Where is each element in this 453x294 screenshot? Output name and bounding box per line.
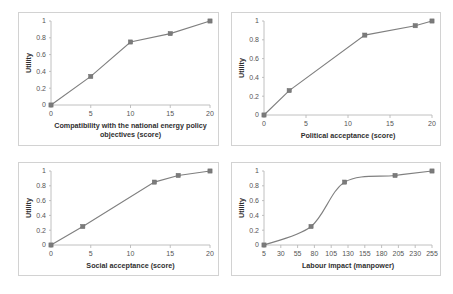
y-tick-label: 0 (255, 111, 259, 118)
data-point-marker (49, 243, 53, 247)
y-tick-label: 1 (255, 167, 259, 174)
y-tick-label: 1 (42, 17, 46, 24)
data-point-marker (363, 33, 367, 37)
panel-frame-1: 00.20.40.60.8105101520UtilityCompatibili… (18, 12, 219, 146)
chart-canvas-2: 00.20.40.60.8105101520UtilityPolitical a… (232, 13, 440, 145)
x-tick-label: 180 (376, 250, 388, 257)
data-point-marker (49, 103, 53, 107)
x-tick-label: 205 (393, 250, 405, 257)
data-point-marker (89, 74, 93, 78)
x-tick-label: 80 (311, 250, 319, 257)
chart-canvas-1: 00.20.40.60.8105101520UtilityCompatibili… (19, 13, 218, 145)
panel-frame-3: 00.20.40.60.8105101520UtilitySocial acce… (18, 162, 219, 276)
y-tick-label: 0.2 (36, 85, 46, 92)
panel-grid: 00.20.40.60.8105101520UtilityCompatibili… (0, 0, 453, 294)
x-tick-label: 15 (386, 120, 394, 127)
chart-svg: 00.20.40.60.8153055801051301551802052302… (232, 163, 440, 275)
y-tick-label: 0.8 (249, 182, 259, 189)
data-point-marker (343, 180, 347, 184)
y-tick-label: 0 (42, 101, 46, 108)
y-tick-label: 0.2 (36, 227, 46, 234)
chart-svg: 00.20.40.60.8105101520UtilitySocial acce… (19, 163, 218, 275)
x-tick-label: 130 (342, 250, 354, 257)
data-point-marker (128, 40, 132, 44)
x-tick-label: 15 (166, 110, 174, 117)
data-point-marker (262, 113, 266, 117)
x-tick-label: 230 (409, 250, 421, 257)
y-tick-label: 0.8 (36, 182, 46, 189)
x-tick-label: 15 (166, 250, 174, 257)
x-tick-label: 5 (89, 250, 93, 257)
x-tick-label: 0 (262, 120, 266, 127)
series-line-utility (264, 171, 432, 245)
y-tick-label: 0.6 (36, 197, 46, 204)
x-tick-label: 105 (325, 250, 337, 257)
x-tick-label: 5 (304, 120, 308, 127)
y-tick-label: 0 (42, 241, 46, 248)
data-point-marker (152, 180, 156, 184)
x-tick-label: 20 (206, 110, 214, 117)
y-tick-label: 0.4 (36, 212, 46, 219)
chart-canvas-4: 00.20.40.60.8153055801051301551802052302… (232, 163, 440, 275)
y-tick-label: 0.6 (36, 51, 46, 58)
chart-svg: 00.20.40.60.8105101520UtilityPolitical a… (232, 13, 440, 145)
y-tick-label: 0 (255, 241, 259, 248)
y-tick-label: 1 (42, 167, 46, 174)
x-tick-label: 5 (89, 110, 93, 117)
y-axis-title: Utility (24, 53, 33, 73)
y-tick-label: 0.4 (249, 74, 259, 81)
y-tick-label: 0.4 (249, 212, 259, 219)
figure-root: 00.20.40.60.8105101520UtilityCompatibili… (0, 0, 453, 294)
x-tick-label: 5 (262, 250, 266, 257)
y-axis-title: Utility (237, 198, 246, 218)
data-point-marker (430, 19, 434, 23)
data-point-marker (208, 169, 212, 173)
data-point-marker (208, 19, 212, 23)
x-tick-label: 155 (359, 250, 371, 257)
data-point-marker (309, 224, 313, 228)
data-point-marker (413, 24, 417, 28)
panel-frame-2: 00.20.40.60.8105101520UtilityPolitical a… (231, 12, 441, 146)
x-tick-label: 30 (277, 250, 285, 257)
chart-canvas-3: 00.20.40.60.8105101520UtilitySocial acce… (19, 163, 218, 275)
x-axis-title: Compatibility with the national energy p… (54, 121, 207, 130)
x-tick-label: 0 (49, 110, 53, 117)
x-tick-label: 255 (426, 250, 438, 257)
data-point-marker (176, 173, 180, 177)
x-tick-label: 10 (344, 120, 352, 127)
series-line-utility (51, 171, 210, 245)
y-axis-title: Utility (237, 58, 246, 78)
x-axis-title: Political acceptance (score) (301, 131, 396, 140)
x-tick-label: 20 (428, 120, 436, 127)
chart-panel-political-acceptance: 00.20.40.60.8105101520UtilityPolitical a… (226, 0, 453, 150)
x-axis-title: Social acceptance (score) (86, 261, 175, 270)
data-point-marker (81, 224, 85, 228)
x-axis-title: Labour impact (manpower) (302, 261, 395, 270)
y-axis-title: Utility (24, 198, 33, 218)
y-tick-label: 0.4 (36, 68, 46, 75)
series-line-utility (51, 21, 210, 105)
y-tick-label: 0.8 (249, 36, 259, 43)
chart-panel-social-acceptance: 00.20.40.60.8105101520UtilitySocial acce… (0, 150, 226, 294)
chart-panel-compatibility: 00.20.40.60.8105101520UtilityCompatibili… (0, 0, 226, 150)
y-tick-label: 0.6 (249, 197, 259, 204)
data-point-marker (393, 173, 397, 177)
y-tick-label: 0.8 (36, 34, 46, 41)
panel-frame-4: 00.20.40.60.8153055801051301551802052302… (231, 162, 441, 276)
y-tick-label: 0.2 (249, 93, 259, 100)
chart-svg: 00.20.40.60.8105101520UtilityCompatibili… (19, 13, 218, 145)
x-tick-label: 10 (127, 110, 135, 117)
data-point-marker (287, 88, 291, 92)
y-tick-label: 0.6 (249, 55, 259, 62)
chart-panel-labour-impact: 00.20.40.60.8153055801051301551802052302… (226, 150, 453, 294)
y-tick-label: 1 (255, 17, 259, 24)
x-tick-label: 55 (294, 250, 302, 257)
x-tick-label: 0 (49, 250, 53, 257)
series-line-utility (264, 21, 432, 115)
x-axis-title: objectives (score) (100, 130, 162, 139)
data-point-marker (262, 243, 266, 247)
x-tick-label: 10 (127, 250, 135, 257)
y-tick-label: 0.2 (249, 227, 259, 234)
x-tick-label: 20 (206, 250, 214, 257)
data-point-marker (168, 32, 172, 36)
